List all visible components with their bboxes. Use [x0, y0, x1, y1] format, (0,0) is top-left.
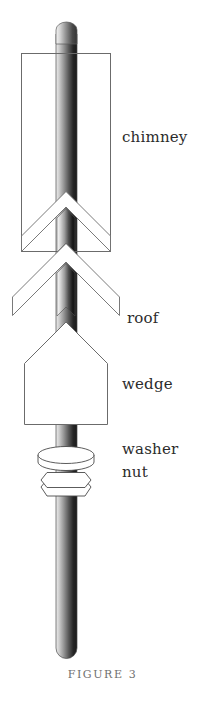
label-wedge: wedge — [122, 375, 173, 393]
washer-part — [38, 447, 94, 471]
nut-part — [41, 473, 91, 497]
wedge-body — [25, 322, 108, 425]
label-chimney: chimney — [122, 128, 188, 146]
label-roof: roof — [127, 309, 159, 327]
label-nut: nut — [122, 463, 148, 481]
figure-container: chimney roof wedge washer nut FIGURE 3 — [0, 0, 205, 705]
figure-caption: FIGURE 3 — [0, 668, 205, 681]
assembly-diagram — [0, 0, 205, 705]
label-washer: washer — [122, 440, 178, 458]
roof-lower-chevron — [13, 244, 120, 317]
